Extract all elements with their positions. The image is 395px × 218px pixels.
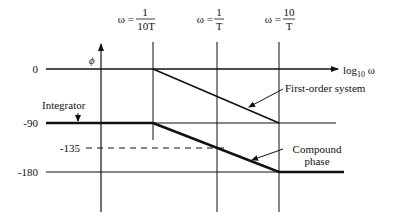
svg-text:1: 1 bbox=[216, 6, 222, 18]
x-label-sub: 10 bbox=[357, 70, 365, 79]
marker-label-1-over-T: ω = 1 T bbox=[197, 6, 224, 32]
marker-label-1-over-10T: ω = 1 10T bbox=[118, 6, 155, 32]
svg-text:1: 1 bbox=[142, 6, 148, 18]
svg-text:ω =: ω = bbox=[265, 13, 281, 25]
compound-label-line2: phase bbox=[304, 155, 329, 167]
marker-label-10-over-T: ω = 10 T bbox=[265, 6, 295, 32]
first-order-arrow bbox=[249, 89, 283, 107]
y-tick-minus-135: -135 bbox=[60, 142, 81, 154]
y-tick-minus-180: -180 bbox=[18, 166, 39, 178]
integrator-label: Integrator bbox=[42, 99, 86, 111]
compound-label-line1: Compound bbox=[293, 143, 342, 155]
svg-text:T: T bbox=[286, 20, 293, 32]
first-order-label: First-order system bbox=[285, 82, 366, 94]
first-order-phase-line bbox=[153, 69, 279, 123]
y-tick-minus-90: -90 bbox=[23, 117, 38, 129]
x-axis-label: log10 ω bbox=[343, 64, 375, 79]
phase-diagram: 0 -90 -135 -180 ϕ log10 ω ω = 1 10T ω = … bbox=[0, 0, 395, 218]
y-tick-0: 0 bbox=[33, 63, 39, 75]
compound-arrow bbox=[252, 149, 283, 160]
x-label-omega: ω bbox=[365, 64, 375, 76]
svg-text:T: T bbox=[216, 20, 223, 32]
svg-text:ω =: ω = bbox=[197, 13, 213, 25]
svg-text:ω =: ω = bbox=[118, 13, 134, 25]
x-label-log: log bbox=[343, 64, 358, 76]
svg-text:10T: 10T bbox=[137, 20, 155, 32]
svg-text:10: 10 bbox=[284, 6, 296, 18]
phi-axis-label: ϕ bbox=[89, 54, 95, 66]
